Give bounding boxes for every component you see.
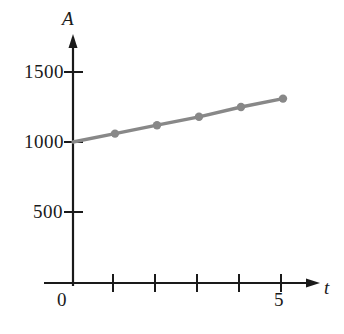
data-series-A <box>73 94 287 142</box>
y-tick-label-1000: 1000 <box>24 131 64 153</box>
data-point <box>237 103 245 111</box>
x-axis <box>44 279 320 288</box>
y-tick-label-500: 500 <box>33 201 63 223</box>
y-axis-name-label: A <box>62 8 74 30</box>
data-point <box>111 129 119 137</box>
chart-figure: 1500 1000 500 0 5 A t <box>0 0 344 334</box>
data-point <box>195 113 203 121</box>
data-point <box>153 121 161 129</box>
y-axis-arrowhead <box>69 34 78 48</box>
data-point <box>279 94 287 102</box>
origin-label: 0 <box>57 289 67 311</box>
series-line <box>73 99 283 142</box>
x-axis-name-label: t <box>324 277 329 299</box>
x-axis-arrowhead <box>306 279 320 288</box>
chart-plot-area <box>0 0 344 334</box>
x-tick-label-5: 5 <box>274 289 284 311</box>
y-tick-label-1500: 1500 <box>24 61 64 83</box>
series-markers <box>111 94 287 137</box>
